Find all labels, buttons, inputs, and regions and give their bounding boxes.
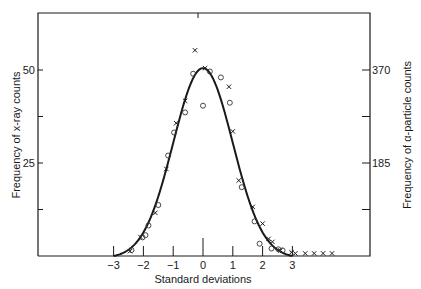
x-ray-marker (312, 251, 316, 255)
x-tick-label: 1 (230, 259, 236, 271)
x-tick-label: 2 (260, 259, 266, 271)
right-y-axis-ticks: 185370 (362, 64, 390, 210)
x-tick-label: 0 (200, 259, 206, 271)
alpha-particle-marker (257, 241, 262, 246)
x-ray-marker (227, 85, 231, 89)
alpha-particle-marker (201, 103, 206, 108)
alpha-particle-marker (239, 185, 244, 190)
left-y-axis-title: Frequency of x-ray counts (10, 71, 22, 199)
plot-frame (38, 13, 370, 256)
x-ray-marker (270, 240, 274, 244)
left-y-tick-label: 50 (23, 64, 35, 76)
right-y-tick-label: 185 (372, 157, 390, 169)
right-y-tick-label: 370 (372, 64, 390, 76)
x-ray-marker (153, 211, 157, 215)
x-ray-marker (260, 221, 264, 225)
x-ray-marker (237, 178, 241, 182)
alpha-particle-marker (183, 110, 188, 115)
normal-curve (114, 68, 293, 256)
x-tick-label: −2 (137, 259, 150, 271)
alpha-particle-count-markers (129, 69, 285, 253)
right-y-axis-title: Frequency of α-particle counts (401, 60, 413, 209)
x-tick-label: −1 (167, 259, 180, 271)
x-ray-count-markers (128, 48, 334, 256)
x-ray-marker (193, 48, 197, 52)
left-y-tick-label: 25 (23, 157, 35, 169)
x-ray-marker (293, 251, 297, 255)
alpha-particle-marker (156, 203, 161, 208)
x-ray-marker (321, 251, 325, 255)
x-ray-marker (231, 129, 235, 133)
x-ray-marker (303, 251, 307, 255)
x-ray-marker (289, 250, 293, 254)
x-axis-title: Standard deviations (154, 273, 252, 285)
normal-distribution-chart: −3−2−10123 2550 185370 Standard deviatio… (0, 0, 421, 289)
axes-box (38, 13, 370, 256)
x-tick-label: −3 (107, 259, 120, 271)
alpha-particle-marker (227, 100, 232, 105)
alpha-particle-marker (269, 246, 274, 251)
alpha-particle-marker (218, 75, 223, 80)
x-ray-marker (330, 251, 334, 255)
left-y-axis-ticks: 2550 (23, 64, 43, 210)
x-tick-label: 3 (289, 259, 295, 271)
